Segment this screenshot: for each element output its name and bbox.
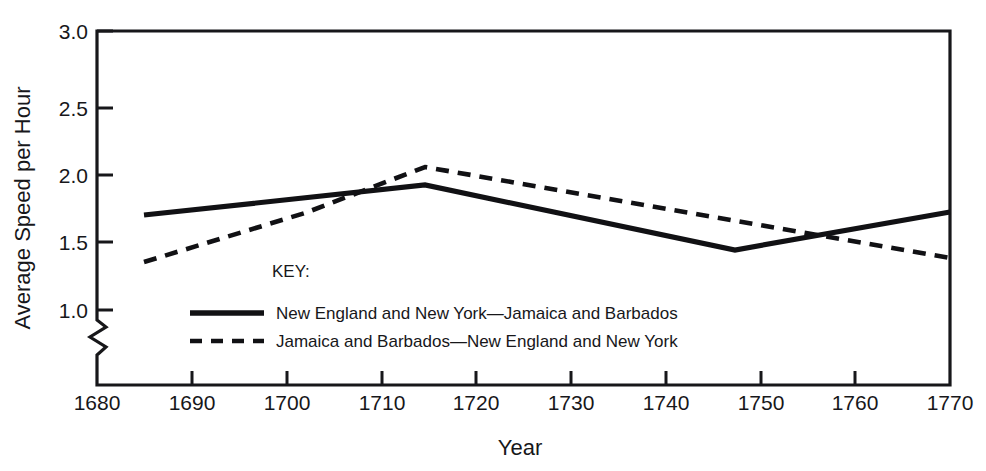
y-tick-label-2.0: 2.0: [59, 164, 88, 187]
legend-heading: KEY:: [272, 262, 310, 281]
series-line-dashed: [144, 167, 950, 262]
y-tick-label-1.0: 1.0: [59, 299, 88, 322]
x-tick-label-1700: 1700: [264, 391, 311, 414]
y-tick-label-3.0: 3.0: [59, 20, 88, 43]
chart-figure: 3.0 2.5 2.0 1.5 1.0 1680 1690 1700 1710 …: [0, 0, 986, 471]
x-axis-ticks: [192, 371, 855, 385]
x-tick-label-1720: 1720: [453, 391, 500, 414]
legend-entry-solid: New England and New York—Jamaica and Bar…: [190, 304, 678, 323]
series-line-solid: [144, 185, 950, 250]
y-tick-label-2.5: 2.5: [59, 97, 88, 120]
legend-label-solid: New England and New York—Jamaica and Bar…: [276, 304, 678, 323]
x-tick-label-1770: 1770: [927, 391, 974, 414]
y-tick-label-1.5: 1.5: [59, 231, 88, 254]
y-axis-tick-labels: 3.0 2.5 2.0 1.5 1.0: [59, 20, 88, 322]
x-axis-title: Year: [498, 435, 542, 460]
legend-label-dashed: Jamaica and Barbados—New England and New…: [276, 332, 678, 351]
x-tick-label-1730: 1730: [548, 391, 595, 414]
y-axis-title: Average Speed per Hour: [10, 87, 35, 330]
x-tick-label-1690: 1690: [169, 391, 216, 414]
legend-entry-dashed: Jamaica and Barbados—New England and New…: [190, 332, 678, 351]
x-tick-label-1750: 1750: [738, 391, 785, 414]
legend: KEY: New England and New York—Jamaica an…: [190, 262, 678, 351]
x-tick-label-1760: 1760: [832, 391, 879, 414]
line-chart: 3.0 2.5 2.0 1.5 1.0 1680 1690 1700 1710 …: [0, 0, 986, 471]
x-tick-label-1740: 1740: [643, 391, 690, 414]
x-tick-label-1680: 1680: [74, 391, 121, 414]
y-axis-ticks: [97, 31, 113, 310]
x-axis-tick-labels: 1680 1690 1700 1710 1720 1730 1740 1750 …: [74, 391, 974, 414]
x-tick-label-1710: 1710: [359, 391, 406, 414]
